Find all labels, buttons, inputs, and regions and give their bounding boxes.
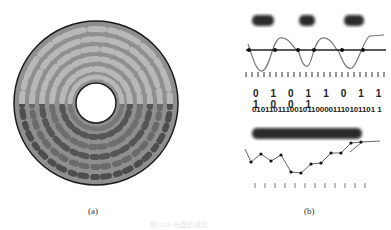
panel-b-label: (b) bbox=[304, 206, 315, 216]
pit-marks bbox=[252, 15, 364, 26]
pit-band bbox=[252, 128, 362, 139]
readout-signal-diagram bbox=[240, 0, 391, 230]
figure-footnote: 图 5.19 光盘的读出 bbox=[150, 219, 208, 229]
panel-a-disc: (a) bbox=[0, 0, 230, 230]
bit-sequence-small: 01011011100101100001110101101 1 bbox=[252, 105, 382, 114]
optical-disc-icon bbox=[0, 0, 230, 230]
panel-b-signal: (b) bbox=[240, 0, 391, 230]
panel-a-label: (a) bbox=[88, 206, 98, 216]
